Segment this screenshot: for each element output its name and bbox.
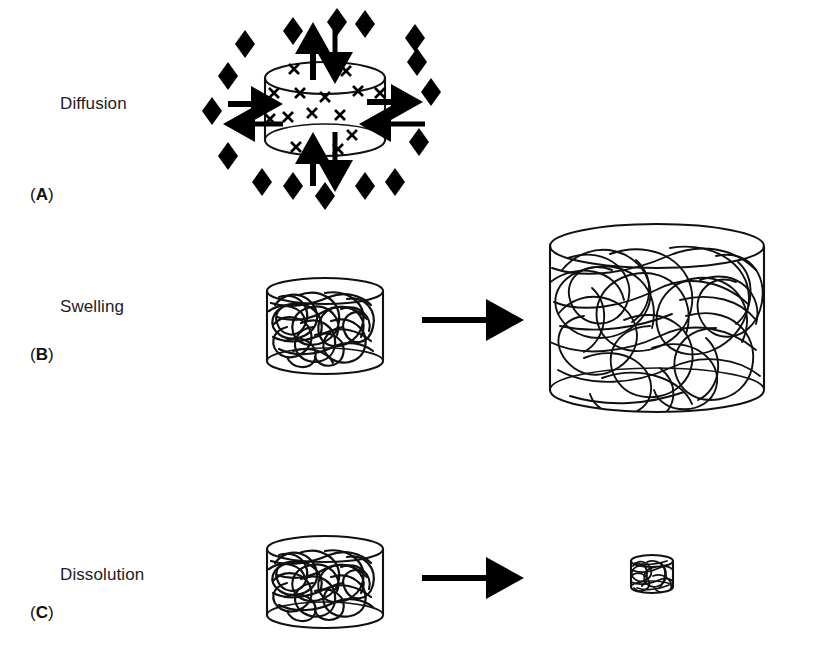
swelling-before-cylinder (255, 275, 395, 380)
panel-c-title: Dissolution (60, 565, 144, 585)
diffusion-arrows (223, 22, 425, 192)
dissolution-before-cylinder (255, 533, 395, 633)
dissolution-transition-arrow (420, 553, 540, 603)
swelling-after-cylinder (540, 218, 775, 433)
panel-c-letter: (C) (30, 603, 54, 623)
panel-b-title: Swelling (60, 297, 124, 317)
diffusion-artwork (195, 0, 445, 215)
diffusion-drug-markers (265, 64, 385, 154)
panel-a-letter-char: A (36, 185, 48, 204)
panel-b-letter: (B) (30, 345, 54, 365)
polymer-network-c1 (269, 550, 374, 621)
panel-a-title: Diffusion (60, 94, 127, 114)
panel-a-letter: (A) (30, 185, 54, 205)
figure-canvas: Diffusion (A) (0, 0, 822, 650)
polymer-network-b2 (548, 247, 763, 418)
panel-c-letter-char: C (36, 603, 48, 622)
panel-b-letter-char: B (36, 345, 48, 364)
swelling-transition-arrow (420, 295, 540, 345)
diffusion-cylinder (265, 62, 385, 156)
dissolution-after-cylinder (625, 550, 685, 605)
